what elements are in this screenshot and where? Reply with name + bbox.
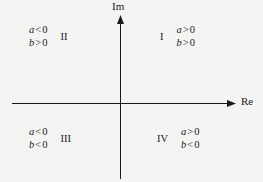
quadrant-2-numeral: II bbox=[60, 30, 67, 43]
quadrant-1-condition-a-op: > bbox=[182, 24, 190, 35]
quadrant-2-condition-b-op: > bbox=[34, 37, 42, 48]
quadrant-1-group: I a>0 b>0 bbox=[160, 23, 195, 49]
quadrant-1-condition-a: a>0 bbox=[177, 23, 195, 36]
quadrant-1-condition-b: b>0 bbox=[177, 36, 195, 49]
quadrant-3-condition-a-op: < bbox=[34, 126, 42, 137]
quadrant-3-condition-b-num: 0 bbox=[42, 139, 47, 150]
quadrant-1-condition-b-op: > bbox=[182, 37, 190, 48]
quadrant-1-condition-b-num: 0 bbox=[190, 37, 195, 48]
quadrant-3-condition-a-num: 0 bbox=[42, 126, 47, 137]
quadrant-4-condition-a: a>0 bbox=[181, 125, 199, 138]
quadrant-4-numeral: IV bbox=[157, 132, 168, 145]
imaginary-axis-arrowhead bbox=[117, 15, 124, 24]
quadrant-4-condition-b: b<0 bbox=[181, 138, 199, 151]
quadrant-1-condition-b-var: b bbox=[177, 37, 182, 48]
quadrant-3-condition-b: b<0 bbox=[29, 138, 47, 151]
quadrant-2-conditions: a<0 b>0 bbox=[29, 23, 47, 49]
quadrant-1-numeral: I bbox=[160, 30, 164, 43]
quadrant-3-conditions: a<0 b<0 bbox=[29, 125, 47, 151]
quadrant-2-condition-a-num: 0 bbox=[42, 24, 47, 35]
quadrant-1-condition-a-num: 0 bbox=[190, 24, 195, 35]
real-axis-arrowhead bbox=[227, 100, 236, 107]
quadrant-2-condition-a-op: < bbox=[34, 24, 42, 35]
quadrant-4-condition-b-num: 0 bbox=[194, 139, 199, 150]
quadrant-2-condition-b-num: 0 bbox=[42, 37, 47, 48]
imaginary-axis-label: Im bbox=[112, 1, 124, 12]
quadrant-4-condition-a-num: 0 bbox=[194, 126, 199, 137]
quadrant-2-group: a<0 b>0 II bbox=[29, 23, 67, 49]
quadrant-3-condition-b-op: < bbox=[34, 139, 42, 150]
quadrant-1-condition-a-var: a bbox=[177, 24, 182, 35]
real-axis-label: Re bbox=[241, 96, 253, 107]
complex-plane-diagram: Im Re I a>0 b>0 a<0 b>0 II a<0 bbox=[0, 0, 263, 182]
quadrant-4-conditions: a>0 b<0 bbox=[181, 125, 199, 151]
quadrant-3-group: a<0 b<0 III bbox=[29, 125, 71, 151]
quadrant-1-conditions: a>0 b>0 bbox=[177, 23, 195, 49]
quadrant-2-condition-b: b>0 bbox=[29, 36, 47, 49]
quadrant-4-group: IV a>0 b<0 bbox=[157, 125, 200, 151]
quadrant-2-condition-a: a<0 bbox=[29, 23, 47, 36]
quadrant-3-condition-a: a<0 bbox=[29, 125, 47, 138]
quadrant-3-numeral: III bbox=[60, 132, 71, 145]
